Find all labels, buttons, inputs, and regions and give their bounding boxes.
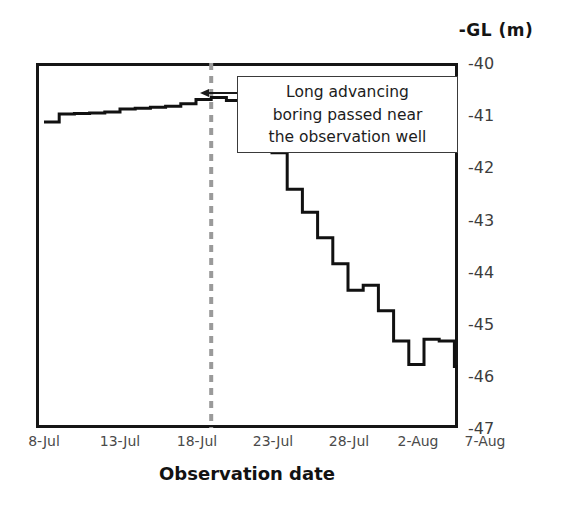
y-tick-label: -42 — [468, 158, 538, 177]
y-tick-label: -45 — [468, 315, 538, 334]
y-tick-label: -43 — [468, 211, 538, 230]
y-axis-title: -GL (m) — [430, 20, 562, 40]
annotation-arrow-icon — [196, 82, 242, 104]
annotation-line: the observation well — [269, 126, 427, 149]
annotation-line: Long advancing — [286, 81, 409, 104]
annotation-callout: Long advancing boring passed near the ob… — [237, 76, 458, 153]
x-tick-label: 7-Aug — [440, 433, 530, 449]
y-tick-label: -40 — [468, 54, 538, 73]
x-axis-title: Observation date — [36, 463, 458, 484]
y-tick-label: -41 — [468, 106, 538, 125]
y-tick-label: -46 — [468, 367, 538, 386]
y-tick-label: -44 — [468, 263, 538, 282]
chart-figure: -GL (m) -40 -41 -42 -43 -44 -45 -46 -47 … — [0, 0, 562, 513]
annotation-line: boring passed near — [273, 104, 423, 127]
